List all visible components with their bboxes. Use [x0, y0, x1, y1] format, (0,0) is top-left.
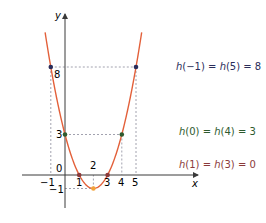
tick-x-5: 5: [132, 177, 138, 189]
tick-y-3: 3: [56, 129, 62, 141]
x-axis-label: x: [192, 178, 198, 190]
tick-x-neg1: −1: [40, 177, 55, 189]
tick-x-1: 1: [76, 177, 82, 189]
y-axis-label: y: [55, 10, 61, 22]
tick-x-3: 3: [104, 177, 110, 189]
tick-x-4: 4: [118, 177, 124, 189]
annotation-h-0: h(1) = h(3) = 0: [179, 159, 256, 171]
data-point: [63, 132, 68, 137]
data-point: [91, 186, 96, 191]
tick-y-8: 8: [54, 69, 60, 81]
parabola-plot: [0, 0, 266, 223]
annotation-h-3: h(0) = h(4) = 3: [179, 126, 256, 138]
annotation-h-8: h(−1) = h(5) = 8: [176, 61, 261, 73]
data-point: [134, 65, 139, 70]
tick-x-2: 2: [90, 160, 96, 172]
data-point: [120, 132, 125, 137]
data-point: [49, 65, 54, 70]
tick-origin-0: 0: [56, 163, 62, 175]
